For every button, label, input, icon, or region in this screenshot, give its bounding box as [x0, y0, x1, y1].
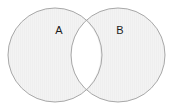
venn-diagram-canvas: A B: [0, 0, 174, 109]
set-label-b: B: [116, 24, 123, 36]
venn-diagram-svg: A B: [0, 0, 174, 109]
set-label-a: A: [55, 24, 63, 36]
